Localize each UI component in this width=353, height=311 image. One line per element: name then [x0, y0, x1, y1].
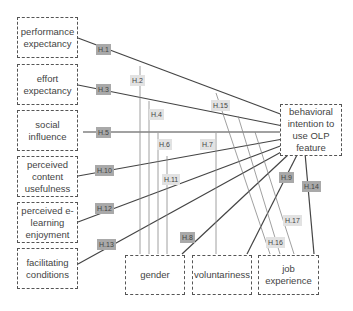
label-h14: H.14 — [302, 181, 321, 192]
label-h11: H.11 — [162, 174, 180, 185]
label-h2: H.2 — [130, 75, 145, 86]
label-h12: H.12 — [95, 203, 114, 214]
label-h1: H.1 — [96, 44, 111, 55]
path-h14 — [305, 153, 314, 254]
box-effort-expectancy: effort expectancy — [17, 64, 78, 105]
mod-h15 — [216, 93, 270, 254]
mod-h16 — [238, 116, 280, 254]
label-h16: H.16 — [266, 237, 285, 248]
box-behavioral-intention: behavioral intention to use OLP feature — [280, 104, 342, 156]
label-h8: H.8 — [180, 232, 195, 243]
box-performance-expectancy: performance expectancy — [17, 17, 78, 58]
box-perceived-elearning-enjoyment: perceived e-learning enjoyment — [17, 202, 78, 243]
box-voluntariness: voluntariness — [192, 255, 252, 295]
label-h15: H.15 — [211, 100, 230, 111]
box-social-influence: social influence — [17, 110, 78, 151]
box-gender: gender — [125, 255, 185, 295]
label-h3: H.3 — [96, 84, 111, 95]
label-h7: H.7 — [200, 139, 215, 150]
label-h5: H.5 — [96, 127, 111, 138]
label-h13: H.13 — [97, 239, 116, 250]
label-h17: H.17 — [283, 215, 302, 226]
label-h9: H.9 — [279, 172, 294, 183]
label-h10: H.10 — [95, 165, 114, 176]
box-perceived-content-usefulness: perceived content usefulness — [17, 156, 78, 197]
box-job-experience: job experience — [258, 255, 319, 295]
box-facilitating-conditions: facilitating conditions — [17, 248, 78, 289]
label-h6: H.6 — [157, 139, 172, 150]
label-h4: H.4 — [149, 109, 164, 120]
